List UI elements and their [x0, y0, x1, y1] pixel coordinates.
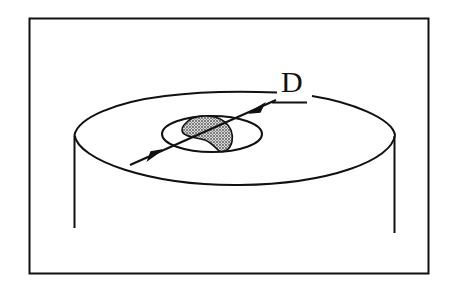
cylinder-top-ellipse: [75, 92, 396, 185]
arrow-head-lower-icon: [148, 150, 162, 160]
shaded-defect-region: [182, 116, 232, 151]
diagram-canvas: D: [0, 0, 456, 288]
arrow-head-upper-icon: [249, 104, 264, 113]
dimension-label: D: [281, 65, 303, 98]
